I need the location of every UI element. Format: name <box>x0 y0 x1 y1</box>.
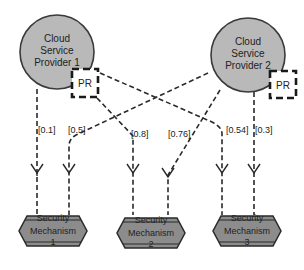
provider-label-line: Service <box>231 48 265 59</box>
edge-labels: [0.1] [0.5] [0.8] [0.76] [0.54] [0.3] <box>38 125 273 139</box>
provider-label-line: Cloud <box>235 36 261 47</box>
provider-label-line: Cloud <box>44 33 70 44</box>
edge-label: [0.1] <box>38 125 56 135</box>
edge-label: [0.76] <box>168 129 191 139</box>
edge-label: [0.54] <box>226 125 249 135</box>
provider-label-line: Provider 2 <box>225 60 271 71</box>
edge-label: [0.8] <box>131 129 149 139</box>
pr-label: PR <box>78 78 92 89</box>
mechanism-label-line: Security <box>37 213 70 223</box>
mechanism-node-2[interactable]: Security Mechanism 2 <box>117 215 185 249</box>
mechanism-label-line: Mechanism <box>30 226 76 236</box>
mechanism-label-line: Security <box>231 213 264 223</box>
mechanism-node-1[interactable]: Security Mechanism 1 <box>19 213 87 247</box>
mechanism-label-line: 2 <box>148 239 153 249</box>
pr-label: PR <box>276 80 290 91</box>
edge-csp2-sm2 <box>168 90 220 215</box>
mechanism-label-line: 3 <box>244 237 249 247</box>
edge-label: [0.5] <box>68 125 86 135</box>
edge-csp1-sm2 <box>97 98 133 215</box>
mechanism-label-line: Mechanism <box>224 226 270 236</box>
edge-label: [0.3] <box>255 125 273 135</box>
trust-diagram: [0.1] [0.5] [0.8] [0.76] [0.54] [0.3] Cl… <box>0 0 304 270</box>
mechanism-label-line: Mechanism <box>128 228 174 238</box>
pr-box-2[interactable]: PR <box>270 71 296 98</box>
provider-label-line: Provider 1 <box>34 57 80 68</box>
pr-box-1[interactable]: PR <box>72 69 98 97</box>
mechanism-node-3[interactable]: Security Mechanism 3 <box>213 213 281 247</box>
mechanism-label-line: Security <box>135 215 168 225</box>
arrowheads <box>31 164 260 177</box>
provider-label-line: Service <box>40 45 74 56</box>
edges <box>37 73 254 215</box>
mechanism-label-line: 1 <box>50 237 55 247</box>
